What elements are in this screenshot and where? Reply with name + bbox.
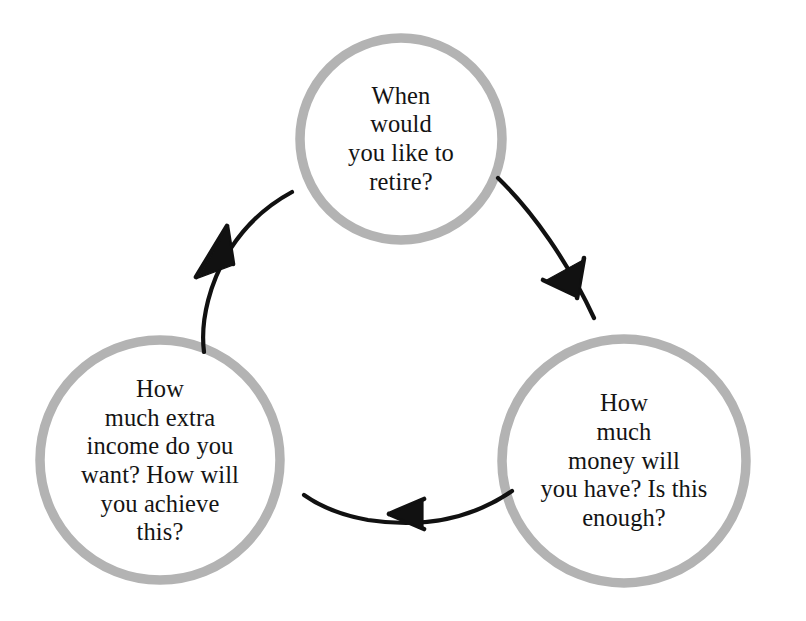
- diagram-canvas: When would you like to retire? How much …: [0, 0, 806, 621]
- arrow-top-to-right: [498, 178, 594, 318]
- arrow-right-to-left: [304, 491, 512, 529]
- cycle-diagram-graphic: [0, 0, 806, 621]
- node-circle-money-available[interactable]: [502, 339, 746, 583]
- arrow-left-to-top: [196, 192, 292, 352]
- node-circle-retirement-date[interactable]: [300, 38, 502, 240]
- node-circle-extra-income[interactable]: [40, 340, 280, 580]
